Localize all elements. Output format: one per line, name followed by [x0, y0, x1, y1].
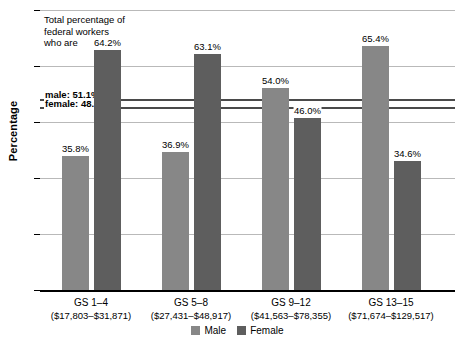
y-axis-title: Percentage	[7, 91, 19, 171]
x-category-label-gs-1-4: GS 1–4	[74, 297, 108, 308]
bar-male-gs-5-8[interactable]: 36.9%	[162, 152, 189, 290]
x-category-range-gs-13-15: ($71,674–$129,517)	[326, 309, 456, 322]
bar-value-female-gs-5-8: 63.1%	[193, 41, 222, 52]
x-category-label-gs-13-15: GS 13–15	[368, 297, 413, 308]
legend-label-male: Male	[204, 325, 226, 336]
bar-value-female-gs-1-4: 64.2%	[93, 37, 122, 48]
bar-value-male-gs-13-15: 65.4%	[361, 33, 390, 44]
bar-male-gs-9-12[interactable]: 54.0%	[262, 88, 289, 290]
bar-group-gs-1-4: 35.8% 64.2%	[62, 10, 121, 290]
bar-group-gs-13-15: 65.4% 34.6%	[362, 10, 421, 290]
x-category-label-gs-9-12: GS 9–12	[271, 297, 310, 308]
x-axis-line	[40, 290, 455, 292]
legend-swatch-female-icon	[237, 326, 246, 335]
legend-item-male[interactable]: Male	[191, 325, 226, 336]
bar-female-gs-5-8[interactable]: 63.1%	[194, 54, 221, 290]
legend-label-female: Female	[250, 325, 283, 336]
bar-value-male-gs-5-8: 36.9%	[161, 139, 190, 150]
bar-female-gs-1-4[interactable]: 64.2%	[94, 50, 121, 290]
legend-swatch-male-icon	[191, 326, 200, 335]
x-category-label-gs-5-8: GS 5–8	[174, 297, 208, 308]
bar-value-male-gs-9-12: 54.0%	[261, 75, 290, 86]
bar-female-gs-9-12[interactable]: 46.0%	[294, 118, 321, 290]
x-category-gs-13-15: GS 13–15 ($71,674–$129,517)	[326, 296, 456, 322]
bar-group-gs-5-8: 36.9% 63.1%	[162, 10, 221, 290]
bar-value-female-gs-13-15: 34.6%	[393, 148, 422, 159]
plot-area: Total percentage of federal workers who …	[40, 10, 455, 290]
bar-chart-figure: Percentage 0 15 30 45 60 75 Total percen…	[0, 0, 475, 344]
chart-legend: Male Female	[0, 325, 475, 336]
bar-value-male-gs-1-4: 35.8%	[61, 143, 90, 154]
legend-item-female[interactable]: Female	[237, 325, 283, 336]
bar-value-female-gs-9-12: 46.0%	[293, 105, 322, 116]
bar-group-gs-9-12: 54.0% 46.0%	[262, 10, 321, 290]
bar-male-gs-1-4[interactable]: 35.8%	[62, 156, 89, 290]
bar-male-gs-13-15[interactable]: 65.4%	[362, 46, 389, 290]
bar-female-gs-13-15[interactable]: 34.6%	[394, 161, 421, 290]
